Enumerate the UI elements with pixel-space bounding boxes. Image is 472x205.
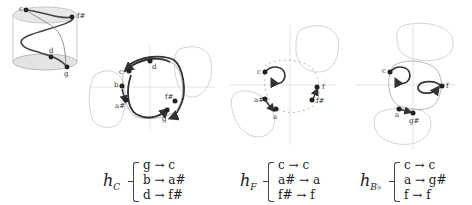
panel-bb-label-f: f — [446, 82, 449, 90]
brace — [268, 162, 274, 202]
equation-symbol: hC — [103, 171, 120, 192]
panel-bb-label-c: c — [382, 67, 386, 75]
panel-f-label-f-sharp: f# — [316, 97, 324, 105]
panel-c-label-g: g — [162, 115, 166, 123]
panel-bb-label-a: a — [395, 111, 399, 119]
cylinder-label-c: c — [19, 5, 23, 13]
panel-c-label-b: b — [114, 81, 118, 89]
equation-row: a → g# — [404, 173, 447, 187]
equation-row: a# → a — [278, 173, 320, 187]
brace-tick — [128, 181, 133, 182]
equation-row: f → f — [404, 188, 431, 202]
panel-c-label-a-sharp: a# — [115, 102, 125, 110]
equation-h-c: hC g → c b → a# d → f# — [103, 158, 223, 204]
brace-tick — [263, 181, 268, 182]
equation-row: c → c — [404, 158, 435, 172]
panel-bb-label-g-sharp: g# — [409, 117, 419, 125]
equation-row: g → c — [143, 158, 175, 172]
cylinder-label-f-sharp: f# — [77, 12, 85, 20]
panel-f-label-c: c — [257, 68, 261, 76]
panel-f-label-a: a — [273, 113, 277, 121]
panel-f-label-f: f — [322, 83, 325, 91]
equation-h-bb: hB♭ c → c a → g# f → f — [360, 158, 472, 204]
panel-c-label-c: c — [119, 68, 123, 76]
cylinder-label-d: d — [49, 47, 53, 55]
brace — [394, 162, 400, 202]
panel-c-label-d: d — [152, 63, 156, 71]
cylinder-label-g: g — [64, 70, 68, 78]
equation-row: f# → f — [278, 188, 315, 202]
equation-row: b → a# — [143, 173, 186, 187]
brace — [133, 162, 139, 202]
panel-c-label-f-sharp: f# — [165, 93, 173, 101]
brace-tick — [389, 181, 394, 182]
panel-f-label-a-sharp: a# — [254, 96, 264, 104]
equation-h-f: hF c → c a# → a f# → f — [240, 158, 350, 204]
equation-row: d → f# — [143, 188, 183, 202]
equation-row: c → c — [278, 158, 309, 172]
equation-symbol: hB♭ — [360, 171, 381, 192]
equation-symbol: hF — [240, 171, 257, 192]
